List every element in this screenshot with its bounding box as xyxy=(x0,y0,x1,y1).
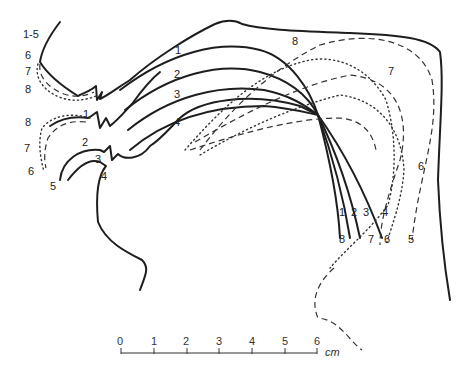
tongue-curve-3 xyxy=(128,89,360,238)
lower-lip-chin xyxy=(60,99,316,180)
bottom-label-6: 6 xyxy=(384,233,390,245)
lip-label-2: 2 xyxy=(82,136,88,148)
tongue-curve-1 xyxy=(120,47,340,238)
scale-unit: cm xyxy=(325,346,340,358)
bottom-label-7: 7 xyxy=(368,233,374,245)
tongue-curve-6 xyxy=(200,95,404,245)
scale-tick-4: 4 xyxy=(249,335,255,347)
label-1-5: 1-5 xyxy=(23,28,39,40)
label-8-lower: 8 xyxy=(25,116,31,128)
tongue-curve-2 xyxy=(125,69,350,238)
curve-label-4: 4 xyxy=(174,116,180,128)
curve-label-1: 1 xyxy=(175,44,181,56)
lower-lip-variant-7 xyxy=(45,122,86,168)
scale-tick-1: 1 xyxy=(151,335,157,347)
scale-tick-2: 2 xyxy=(183,335,189,347)
scale-bar: 0 1 2 3 4 5 6 cm xyxy=(117,335,340,358)
lip-label-4: 4 xyxy=(101,170,107,182)
scale-tick-3: 3 xyxy=(216,335,222,347)
lip-label-1: 1 xyxy=(83,108,89,120)
scale-tick-6: 6 xyxy=(314,335,320,347)
label-6-lower: 6 xyxy=(28,165,34,177)
bottom-label-3: 3 xyxy=(363,206,369,218)
vocal-tract-diagram: 1-5 6 7 8 8 7 6 5 1 2 3 4 1 2 3 4 8 7 6 … xyxy=(0,0,464,377)
label-7-lower: 7 xyxy=(24,142,30,154)
scale-tick-5: 5 xyxy=(282,335,288,347)
curve-label-3: 3 xyxy=(174,88,180,100)
bottom-label-5: 5 xyxy=(408,233,414,245)
curve-label-2: 2 xyxy=(174,68,180,80)
scale-tick-0: 0 xyxy=(117,335,123,347)
bottom-label-4: 4 xyxy=(382,206,388,218)
label-8-upper: 8 xyxy=(25,83,31,95)
lip-label-3: 3 xyxy=(95,153,101,165)
top-label-7: 7 xyxy=(388,65,394,77)
bottom-label-8: 8 xyxy=(339,233,345,245)
right-label-6: 6 xyxy=(418,160,424,172)
tongue-curve-7-lower xyxy=(190,118,376,150)
bottom-label-2: 2 xyxy=(351,206,357,218)
top-label-8: 8 xyxy=(292,35,298,47)
label-5-lower: 5 xyxy=(50,180,56,192)
bottom-label-1: 1 xyxy=(339,206,345,218)
label-6-upper: 6 xyxy=(25,49,31,61)
larynx-outline-8 xyxy=(315,268,362,350)
upper-outline xyxy=(40,21,450,300)
label-7-upper: 7 xyxy=(25,65,31,77)
